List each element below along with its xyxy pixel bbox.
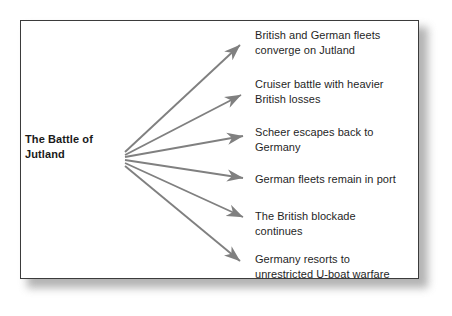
outcome-1-line-2: converge on Jutland <box>255 43 430 58</box>
outcome-5-line-2: continues <box>255 224 430 239</box>
outcome-3-line-2: Germany <box>255 140 430 155</box>
outcome-item-6: Germany resorts to unrestricted U-boat w… <box>255 252 440 281</box>
outcome-3-line-1: Scheer escapes back to <box>255 125 430 140</box>
outcome-5-line-1: The British blockade <box>255 209 430 224</box>
root-label-line-1: The Battle of <box>25 132 125 147</box>
outcome-item-3: Scheer escapes back to Germany <box>255 125 430 154</box>
outcome-item-2: Cruiser battle with heavier British loss… <box>255 77 430 106</box>
outcome-2-line-2: British losses <box>255 92 430 107</box>
root-concept-label: The Battle of Jutland <box>25 132 125 161</box>
root-label-line-2: Jutland <box>25 147 125 162</box>
outcome-1-line-1: British and German fleets <box>255 28 430 43</box>
outcome-6-line-1: Germany resorts to <box>255 252 440 267</box>
outcome-item-5: The British blockade continues <box>255 209 430 238</box>
figure-canvas: The Battle of Jutland British and German… <box>0 0 452 316</box>
outcome-item-4: German fleets remain in port <box>255 172 440 187</box>
outcome-2-line-1: Cruiser battle with heavier <box>255 77 430 92</box>
outcome-4-line-1: German fleets remain in port <box>255 172 440 187</box>
outcome-6-line-2: unrestricted U-boat warfare <box>255 267 440 282</box>
outcome-item-1: British and German fleets converge on Ju… <box>255 28 430 57</box>
